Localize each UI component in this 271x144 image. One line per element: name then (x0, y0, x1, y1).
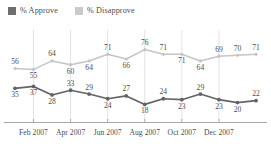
x-tick-label: Aug 2007 (129, 128, 160, 138)
data-point (198, 92, 202, 96)
plot-svg: 5655646064716676717164697071353728332924… (0, 28, 271, 120)
data-label: 18 (141, 106, 149, 115)
x-axis-tick-labels: Feb 2007Apr 2007Jun 2007Aug 2007Oct 2007… (0, 128, 271, 142)
data-point (124, 94, 128, 98)
data-label: 71 (178, 56, 186, 65)
data-point (106, 53, 109, 56)
plot-area: 5655646064716676717164697071353728332924… (0, 28, 271, 120)
data-label: 28 (48, 97, 56, 106)
data-label: 66 (122, 61, 130, 70)
x-tick-label: Dec 2007 (204, 128, 234, 138)
data-label: 64 (197, 63, 205, 72)
data-point (87, 92, 91, 96)
data-label: 33 (67, 79, 75, 88)
approval-line-chart: % Approve % Disapprove 56556460647166767… (0, 0, 271, 144)
data-label: 56 (11, 57, 19, 66)
x-axis-line (0, 119, 271, 127)
legend-item-disapprove: % Disapprove (75, 7, 135, 15)
data-label: 27 (122, 84, 130, 93)
data-point (254, 53, 257, 56)
x-tick-label: Jun 2007 (94, 128, 122, 138)
legend-label-disapprove: % Disapprove (87, 7, 135, 15)
data-label: 24 (104, 101, 112, 110)
x-tick-label: Feb 2007 (19, 128, 48, 138)
data-label: 64 (48, 49, 56, 58)
data-label: 23 (178, 102, 186, 111)
data-label: 76 (141, 38, 149, 47)
data-label: 23 (215, 102, 223, 111)
data-label: 71 (252, 43, 260, 52)
data-point (69, 88, 73, 92)
data-label: 64 (85, 63, 93, 72)
x-tick-label: Apr 2007 (56, 128, 85, 138)
data-label: 29 (197, 83, 205, 92)
data-label: 22 (252, 89, 260, 98)
data-point (50, 59, 53, 62)
data-point (162, 53, 165, 56)
x-axis: Feb 2007Apr 2007Jun 2007Aug 2007Oct 2007… (0, 119, 271, 144)
data-label: 35 (11, 90, 19, 99)
legend-swatch-disapprove (75, 7, 83, 15)
data-point (236, 54, 239, 57)
data-label: 55 (30, 71, 38, 80)
data-label: 29 (85, 83, 93, 92)
data-label: 37 (30, 88, 38, 97)
chart-legend: % Approve % Disapprove (8, 5, 135, 17)
data-label: 71 (160, 43, 168, 52)
data-point (217, 55, 220, 58)
legend-label-approve: % Approve (20, 7, 58, 15)
data-label: 71 (104, 43, 112, 52)
data-point (143, 48, 146, 51)
legend-item-approve: % Approve (8, 7, 58, 15)
data-label: 70 (234, 44, 242, 53)
data-label: 24 (160, 87, 168, 96)
data-point (161, 97, 165, 101)
data-label: 20 (234, 105, 242, 114)
data-label: 69 (215, 45, 223, 54)
legend-swatch-approve (8, 7, 16, 15)
data-point (13, 67, 16, 70)
x-tick-label: Oct 2007 (168, 128, 196, 138)
data-label: 60 (67, 67, 75, 76)
data-point (254, 99, 258, 103)
